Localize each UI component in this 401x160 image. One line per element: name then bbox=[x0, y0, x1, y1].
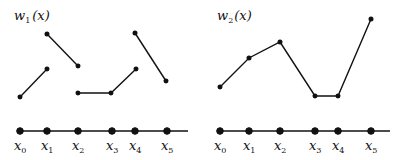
axis-w1 bbox=[17, 128, 188, 135]
tick-labels-w1: x0 x1 x2 x3 x4 x5 bbox=[14, 138, 173, 155]
svg-text:x4: x4 bbox=[332, 138, 344, 155]
diagram-canvas: w1(x) x0 x1 x2 x3 x4 x5 bbox=[0, 0, 401, 160]
svg-text:x5: x5 bbox=[161, 138, 173, 155]
svg-text:x1: x1 bbox=[243, 138, 255, 155]
svg-text:x0: x0 bbox=[214, 138, 226, 155]
svg-text:x3: x3 bbox=[106, 138, 118, 155]
svg-text:x3: x3 bbox=[309, 138, 321, 155]
function-plot-w2 bbox=[218, 17, 373, 98]
svg-text:x1: x1 bbox=[41, 138, 53, 155]
panel-w1: w1(x) x0 x1 x2 x3 x4 x5 bbox=[14, 8, 188, 155]
svg-text:x4: x4 bbox=[129, 138, 141, 155]
panel-title-w1: w1(x) bbox=[14, 8, 50, 25]
svg-text:x2: x2 bbox=[72, 138, 84, 155]
svg-text:x0: x0 bbox=[14, 138, 26, 155]
panel-w2: w2(x) x0 x1 x2 x3 x4 x5 bbox=[214, 8, 390, 155]
tick-labels-w2: x0 x1 x2 x3 x4 x5 bbox=[214, 138, 377, 155]
function-plot-w1 bbox=[18, 31, 168, 99]
panel-title-w2: w2(x) bbox=[217, 8, 252, 25]
svg-text:x5: x5 bbox=[365, 138, 377, 155]
svg-text:x2: x2 bbox=[274, 138, 286, 155]
axis-w2 bbox=[217, 128, 390, 135]
